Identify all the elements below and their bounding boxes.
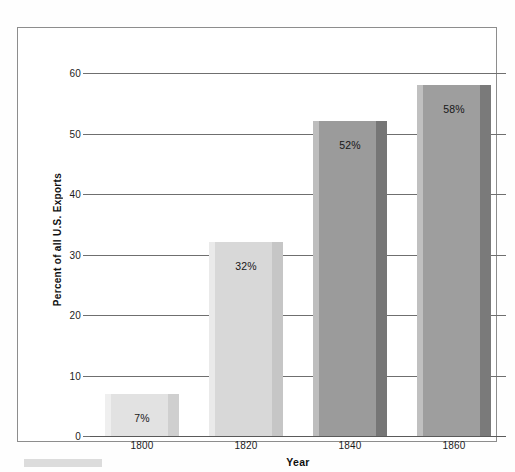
bar-value-label: 7%: [105, 412, 179, 424]
bar-1840[interactable]: 52%: [313, 121, 387, 436]
y-axis-title: Percent of all U.S. Exports: [52, 173, 66, 306]
gridline-0: [90, 436, 506, 437]
y-tick-label-40: 40: [69, 189, 81, 200]
gridline-60: [90, 73, 506, 74]
bar-1820[interactable]: 32%: [209, 242, 283, 436]
bar-edge-right: [376, 121, 387, 436]
y-tick-label-0: 0: [75, 431, 81, 442]
tick-stub-40: [83, 194, 90, 195]
tick-stub-20: [83, 315, 90, 316]
x-tick-label-1820: 1820: [197, 440, 295, 451]
y-tick-label-20: 20: [69, 310, 81, 321]
tick-stub-30: [83, 255, 90, 256]
tick-stub-10: [83, 376, 90, 377]
x-axis-title: Year: [90, 456, 506, 468]
y-tick-label-10: 10: [69, 370, 81, 381]
bar-value-label: 32%: [209, 260, 283, 272]
plot-area: 60 50 40 30: [90, 73, 506, 436]
y-tick-label-30: 30: [69, 249, 81, 260]
bar-edge-left: [417, 85, 423, 436]
caption-swatch: [24, 459, 102, 467]
x-tick-label-1860: 1860: [405, 440, 503, 451]
tick-stub-50: [83, 134, 90, 135]
scan-page-background: Percent of all U.S. Exports 60 50: [0, 0, 515, 472]
bar-value-label: 52%: [313, 139, 387, 151]
chart-frame: Percent of all U.S. Exports 60 50: [17, 27, 497, 442]
y-tick-label-60: 60: [69, 68, 81, 79]
tick-stub-0: [83, 436, 90, 437]
x-tick-label-1840: 1840: [301, 440, 399, 451]
y-tick-label-50: 50: [69, 128, 81, 139]
bar-1800[interactable]: 7%: [105, 394, 179, 436]
bar-1860[interactable]: 58%: [417, 85, 491, 436]
bar-edge-left: [313, 121, 319, 436]
tick-stub-60: [83, 73, 90, 74]
bar-edge-right: [480, 85, 491, 436]
bar-value-label: 58%: [417, 103, 491, 115]
x-tick-label-1800: 1800: [93, 440, 191, 451]
